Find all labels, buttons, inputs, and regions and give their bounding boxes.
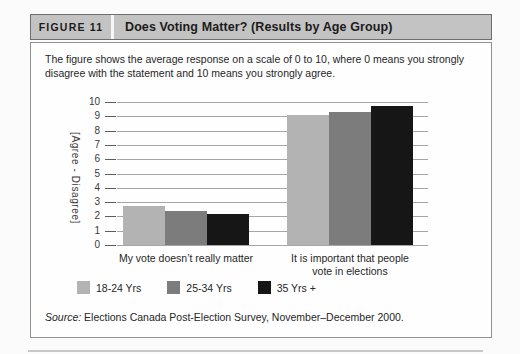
axis-tick: [105, 231, 116, 232]
axis-tick: [105, 159, 116, 160]
y-tick-label: 1: [76, 226, 100, 236]
legend-item: 18-24 Yrs: [77, 281, 141, 294]
legend-swatch: [77, 281, 90, 294]
y-tick-label: 9: [76, 111, 100, 121]
y-tick-label: 5: [76, 169, 100, 179]
x-category-label: It is important that people vote in elec…: [250, 252, 450, 278]
axis-tick: [105, 131, 116, 132]
bar: [207, 214, 249, 245]
y-tick-label: 7: [76, 140, 100, 150]
y-tick-label: 6: [76, 154, 100, 164]
axis-tick: [105, 188, 116, 189]
legend-label: 25-34 Yrs: [186, 282, 231, 294]
y-tick-label: 0: [76, 240, 100, 250]
y-tick-label: 4: [76, 183, 100, 193]
legend-swatch: [258, 281, 271, 294]
figure-body: The figure shows the average response on…: [30, 42, 492, 338]
gridline: [117, 245, 428, 246]
page-bottom-rule: [28, 350, 483, 352]
gridline: [117, 102, 428, 103]
y-tick-label: 10: [76, 97, 100, 107]
bar: [123, 206, 165, 245]
figure-description: The figure shows the average response on…: [45, 53, 479, 80]
axis-tick: [105, 174, 116, 175]
axis-tick: [105, 245, 116, 246]
bar: [371, 106, 413, 245]
axis-tick: [105, 116, 116, 117]
legend-label: 18-24 Yrs: [96, 282, 141, 294]
legend-label: 35 Yrs +: [277, 282, 316, 294]
source-note: Source: Elections Canada Post-Election S…: [45, 311, 404, 323]
axis-tick: [105, 202, 116, 203]
axis-tick: [105, 145, 116, 146]
figure-title: Does Voting Matter? (Results by Age Grou…: [114, 15, 491, 39]
figure-container: FIGURE 11 Does Voting Matter? (Results b…: [30, 14, 492, 338]
y-tick-label: 8: [76, 126, 100, 136]
legend: 18-24 Yrs25-34 Yrs35 Yrs +: [77, 281, 316, 294]
legend-swatch: [167, 281, 180, 294]
source-text: Elections Canada Post-Election Survey, N…: [81, 311, 404, 323]
legend-item: 35 Yrs +: [258, 281, 316, 294]
legend-item: 25-34 Yrs: [167, 281, 231, 294]
y-tick-label: 2: [76, 211, 100, 221]
bar: [287, 115, 329, 245]
bar: [165, 211, 207, 245]
source-prefix: Source:: [45, 311, 81, 323]
figure-header: FIGURE 11 Does Voting Matter? (Results b…: [30, 14, 492, 40]
chart: [Agree - Disagree] 012345678910My vote d…: [31, 89, 491, 277]
y-tick-label: 3: [76, 197, 100, 207]
bar: [329, 112, 371, 245]
figure-number-label: FIGURE 11: [31, 15, 111, 39]
axis-tick: [105, 102, 116, 103]
axis-tick: [105, 216, 116, 217]
